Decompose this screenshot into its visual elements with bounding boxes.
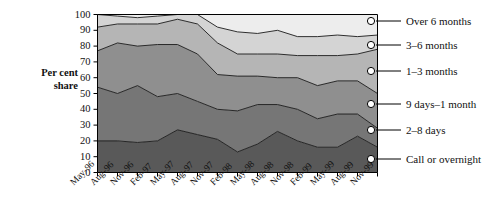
plot-area: [0, 0, 504, 224]
stacked-area-chart: Per cent share 0102030405060708090100 Ma…: [0, 0, 504, 224]
legend-item-5[interactable]: Call or overnight: [406, 153, 481, 165]
legend-item-2[interactable]: 1–3 months: [406, 65, 458, 77]
legend-marker-filled-circle: [367, 67, 374, 74]
legend-item-4[interactable]: 2–8 days: [406, 124, 445, 136]
legend-marker-filled-circle: [367, 100, 374, 107]
legend-item-1[interactable]: 3–6 months: [406, 39, 458, 51]
legend-item-3[interactable]: 9 days–1 month: [406, 98, 476, 110]
legend-marker-filled-circle: [367, 126, 374, 133]
legend-item-0[interactable]: Over 6 months: [406, 15, 471, 27]
legend-marker-hollow-circle: [367, 17, 374, 24]
legend-marker-hollow-circle: [367, 41, 374, 48]
